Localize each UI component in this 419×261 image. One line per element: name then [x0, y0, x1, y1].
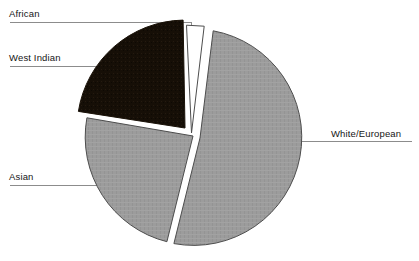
slice-african	[187, 25, 205, 133]
slice-label-white-european: White/European	[331, 128, 401, 139]
slice-label-west-indian: West Indian	[9, 52, 61, 63]
pie-slices	[78, 20, 301, 245]
slice-west-indian	[78, 20, 185, 128]
slice-label-african: African	[9, 8, 40, 19]
pie-chart: African West Indian Asian White/European	[0, 0, 419, 261]
slice-asian	[85, 118, 193, 242]
slice-label-asian: Asian	[9, 171, 34, 182]
